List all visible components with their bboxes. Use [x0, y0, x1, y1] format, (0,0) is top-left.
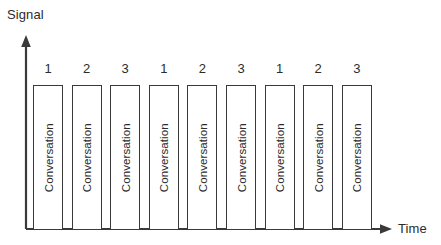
conversation-slot: 3Conversation — [110, 60, 140, 229]
conversation-bar: Conversation — [110, 85, 140, 229]
conversation-bar: Conversation — [149, 85, 179, 229]
conversation-label: Conversation — [159, 124, 171, 193]
conversation-bar: Conversation — [265, 85, 295, 229]
conversation-bar-text: Conversation — [111, 86, 141, 230]
conversation-slot: 3Conversation — [226, 60, 256, 229]
conversation-label: Conversation — [82, 124, 94, 193]
conversation-slot: 1Conversation — [33, 60, 63, 229]
conversation-bar-text: Conversation — [266, 86, 296, 230]
slot-number-label: 1 — [265, 60, 295, 82]
conversation-label: Conversation — [198, 124, 210, 193]
conversation-slot: 1Conversation — [149, 60, 179, 229]
conversation-slot: 2Conversation — [303, 60, 333, 229]
conversation-label: Conversation — [275, 124, 287, 193]
conversation-slot: 2Conversation — [72, 60, 102, 229]
slot-number-label: 2 — [72, 60, 102, 82]
conversation-bar: Conversation — [303, 85, 333, 229]
conversation-bar-text: Conversation — [343, 86, 373, 230]
conversation-bar-text: Conversation — [188, 86, 218, 230]
arrow-right-icon — [380, 224, 392, 234]
conversation-slot: 2Conversation — [187, 60, 217, 229]
conversation-bar: Conversation — [226, 85, 256, 229]
conversation-label: Conversation — [352, 124, 364, 193]
conversation-label: Conversation — [313, 124, 325, 193]
slot-number-label: 3 — [110, 60, 140, 82]
conversation-label: Conversation — [120, 124, 132, 193]
conversation-bar-text: Conversation — [304, 86, 334, 230]
diagram-canvas: Signal Time 1Conversation2Conversation3C… — [0, 0, 441, 245]
conversation-label: Conversation — [43, 124, 55, 193]
slot-number-label: 2 — [303, 60, 333, 82]
conversation-slot: 3Conversation — [342, 60, 372, 229]
conversation-slot: 1Conversation — [265, 60, 295, 229]
conversation-bar: Conversation — [187, 85, 217, 229]
conversation-bar-text: Conversation — [227, 86, 257, 230]
plot-area: 1Conversation2Conversation3Conversation1… — [33, 60, 373, 229]
slot-number-label: 3 — [342, 60, 372, 82]
conversation-bar: Conversation — [33, 85, 63, 229]
slot-number-label: 3 — [226, 60, 256, 82]
slot-number-label: 1 — [33, 60, 63, 82]
slot-number-label: 1 — [149, 60, 179, 82]
conversation-bar-text: Conversation — [34, 86, 64, 230]
slot-number-label: 2 — [187, 60, 217, 82]
arrow-up-icon — [21, 35, 31, 47]
conversation-bar-text: Conversation — [150, 86, 180, 230]
conversation-bar: Conversation — [72, 85, 102, 229]
conversation-bar-text: Conversation — [73, 86, 103, 230]
conversation-bar: Conversation — [342, 85, 372, 229]
conversation-label: Conversation — [236, 124, 248, 193]
